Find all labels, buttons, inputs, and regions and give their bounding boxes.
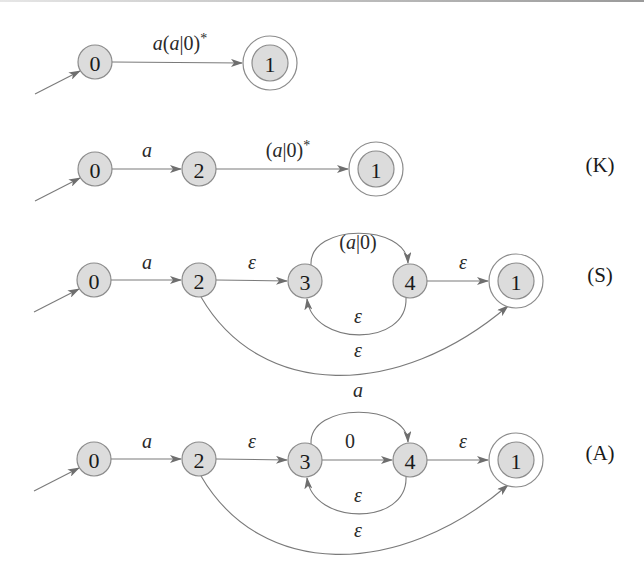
state-label: 4 bbox=[405, 449, 416, 474]
state-0: 0 bbox=[77, 442, 111, 476]
initial-state-arrow bbox=[35, 178, 80, 201]
state-label: 0 bbox=[89, 448, 100, 473]
edge-label-3-to-4: (a|0) bbox=[339, 231, 376, 254]
state-label: 1 bbox=[511, 449, 522, 474]
state-2: 2 bbox=[182, 442, 216, 476]
row-K: a(a|0)*021(K) bbox=[35, 138, 615, 202]
edge-label-0-to-2: a bbox=[142, 251, 152, 273]
state-4: 4 bbox=[393, 264, 427, 298]
edge-0-to-1 bbox=[112, 62, 242, 63]
edge-label-4-to-1: ε bbox=[459, 430, 467, 452]
state-label: 1 bbox=[371, 158, 382, 183]
edge-2-to-3 bbox=[216, 459, 287, 460]
row-initial: a(a|0)*01 bbox=[35, 31, 297, 95]
state-label: 2 bbox=[194, 269, 205, 294]
row-A: aεa0εεε02341(A) bbox=[34, 379, 615, 554]
edge-label-0-to-1: a(a|0)* bbox=[153, 31, 207, 56]
row-tag-label: (A) bbox=[585, 441, 614, 465]
state-label: 3 bbox=[300, 449, 311, 474]
edge-2-to-3 bbox=[216, 280, 287, 281]
state-label: 3 bbox=[300, 270, 311, 295]
nfa-diagram: a(a|0)*01a(a|0)*021(K)aε(a|0)εεε02341(S)… bbox=[0, 0, 644, 577]
edge-label-4-to-3: ε bbox=[354, 484, 362, 506]
state-label: 0 bbox=[90, 51, 101, 76]
edge-label-0-to-2: a bbox=[142, 430, 152, 452]
edge-label-4-to-1: ε bbox=[459, 251, 467, 273]
state-4: 4 bbox=[393, 443, 427, 477]
state-3: 3 bbox=[288, 443, 322, 477]
state-label: 0 bbox=[90, 158, 101, 183]
edge-label-2-to-3: ε bbox=[248, 430, 256, 452]
state-label: 0 bbox=[89, 269, 100, 294]
state-0: 0 bbox=[78, 45, 112, 79]
row-tag-label: (K) bbox=[585, 153, 614, 177]
edge-label-2-to-1: ε bbox=[354, 339, 362, 361]
edge-label-3-to-4: 0 bbox=[345, 430, 355, 452]
accepting-state-1: 1 bbox=[489, 254, 543, 308]
accepting-state-1: 1 bbox=[243, 36, 297, 90]
edge-label-2-to-3: ε bbox=[248, 251, 256, 273]
accepting-state-1: 1 bbox=[349, 142, 403, 196]
state-label: 2 bbox=[194, 158, 205, 183]
initial-state-arrow bbox=[34, 468, 79, 491]
edge-label-2-to-1: ε bbox=[354, 519, 362, 541]
state-2: 2 bbox=[182, 152, 216, 186]
state-label: 2 bbox=[194, 448, 205, 473]
initial-state-arrow bbox=[35, 71, 80, 94]
state-3: 3 bbox=[288, 264, 322, 298]
edge-label-0-to-2: a bbox=[142, 139, 152, 161]
state-label: 1 bbox=[511, 270, 522, 295]
edge-label-3-to-4: a bbox=[353, 379, 363, 401]
accepting-state-1: 1 bbox=[489, 433, 543, 487]
state-0: 0 bbox=[77, 263, 111, 297]
edge-3-to-4 bbox=[311, 412, 408, 444]
state-label: 1 bbox=[265, 52, 276, 77]
row-S: aε(a|0)εεε02341(S) bbox=[34, 231, 613, 375]
row-tag-label: (S) bbox=[587, 263, 613, 287]
state-0: 0 bbox=[78, 152, 112, 186]
state-label: 4 bbox=[405, 270, 416, 295]
state-2: 2 bbox=[182, 263, 216, 297]
initial-state-arrow bbox=[34, 289, 79, 312]
edge-label-4-to-3: ε bbox=[354, 305, 362, 327]
edge-label-2-to-1: (a|0)* bbox=[266, 138, 310, 163]
